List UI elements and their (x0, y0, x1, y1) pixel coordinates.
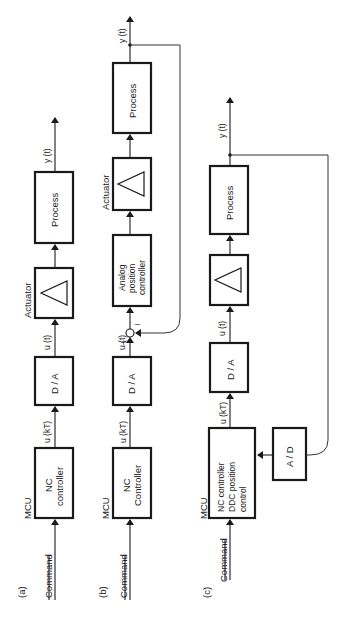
yt-label-c: y (t) (217, 123, 227, 138)
panel-c: (c) Command MCU NC controller DDC positi… (198, 98, 328, 598)
d-a-text-b: D / A (126, 373, 137, 394)
command-label-a: Command (43, 554, 54, 598)
mcu-label-a: MCU (22, 497, 33, 519)
analog-text-1: Analog (117, 264, 127, 291)
panel-label-a: (a) (16, 586, 27, 598)
nc-ddc-text-3: control (238, 486, 248, 512)
actuator-caption-b: Actuator (100, 175, 111, 210)
nc-controller-text-b-2: Controller (132, 465, 143, 506)
sum-minus-sign: – (135, 319, 140, 329)
ukt-label-a: u (kT) (42, 421, 52, 443)
ut-label-c: u (t) (217, 321, 227, 336)
nc-controller-text-a-1: NC (43, 478, 54, 492)
ukt-label-b: u (kT) (118, 421, 128, 443)
d-a-text-c: D / A (225, 359, 236, 380)
mcu-label-c: MCU (198, 497, 209, 519)
ukt-label-c: u (kT) (218, 402, 228, 424)
command-label-b: Command (118, 554, 129, 598)
process-text-c: Process (224, 185, 235, 220)
yt-label-b: y (t) (117, 28, 127, 43)
mcu-label-b: MCU (100, 497, 111, 519)
yt-label-a: y (t) (42, 148, 52, 163)
panel-b: (b) Command MCU NC Controller u (kT) D /… (97, 17, 180, 600)
panel-label-b: (b) (97, 586, 108, 598)
actuator-caption-a: Actuator (22, 283, 33, 318)
process-text-a: Process (49, 192, 60, 227)
a-d-text: A / D (284, 446, 295, 467)
analog-text-2: position (127, 263, 137, 293)
nc-ddc-text-1: NC controller (216, 462, 226, 512)
nc-controller-text-b-1: NC (121, 478, 132, 492)
command-label-c: Command (218, 538, 229, 582)
d-a-text-a: D / A (49, 373, 60, 394)
panel-label-c: (c) (201, 587, 212, 598)
nc-controller-text-a-2: controller (54, 467, 65, 506)
analog-text-3: controller (137, 260, 147, 295)
ut-label-a: u (t) (42, 335, 52, 350)
process-text-b: Process (127, 83, 138, 118)
block-diagram: (a) Command MCU NC controller u (kT) D /… (0, 0, 341, 629)
summing-junction (126, 329, 134, 337)
panel-a: (a) Command MCU NC controller u (kT) D /… (16, 118, 73, 600)
nc-ddc-text-2: DDC position (227, 462, 237, 512)
sum-plus-sign: + (121, 338, 126, 348)
